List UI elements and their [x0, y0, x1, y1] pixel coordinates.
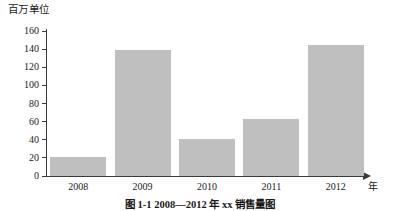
y-axis-tick-label: 140	[24, 42, 39, 55]
y-axis-tick-label: 80	[29, 97, 39, 110]
x-axis-tick-label: 2012	[304, 180, 368, 193]
y-axis-tick-label: 40	[29, 133, 39, 146]
x-axis-tick-label: 2011	[239, 180, 303, 193]
y-axis-tick-label: 160	[24, 24, 39, 37]
x-axis-name-label: 年	[368, 180, 378, 193]
plot-area	[46, 31, 368, 176]
bar-chart-figure: 百万单位 160140120100806040200 2008200920102…	[0, 0, 400, 211]
bar	[243, 119, 299, 176]
bar	[50, 157, 106, 176]
y-axis-tick-label: 100	[24, 78, 39, 91]
y-axis-tick-label: 0	[34, 169, 39, 182]
bar	[115, 50, 171, 176]
x-axis-line	[46, 176, 364, 177]
x-axis-tick-label: 2008	[46, 180, 110, 193]
y-axis-tick-label: 120	[24, 60, 39, 73]
bar	[179, 139, 235, 176]
y-axis-tick-label: 20	[29, 151, 39, 164]
y-axis-unit-label: 百万单位	[8, 4, 50, 16]
figure-caption: 图 1-1 2008—2012 年 xx 销售量图	[0, 198, 400, 211]
x-axis-tick-label: 2009	[110, 180, 174, 193]
bar	[308, 45, 364, 176]
y-axis-tick-label: 60	[29, 115, 39, 128]
x-axis-tick-label: 2010	[175, 180, 239, 193]
